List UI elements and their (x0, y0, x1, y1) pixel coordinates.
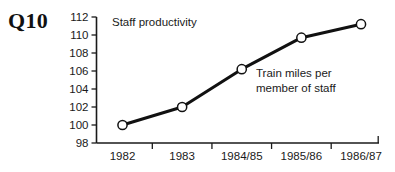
x-tick-label: 1985/86 (281, 150, 323, 162)
line-chart: 98100102104106108110112 198219831984/851… (0, 0, 395, 172)
y-tick-label: 112 (70, 11, 88, 23)
y-tick-label: 108 (69, 47, 88, 59)
x-tick-label: 1986/87 (340, 150, 382, 162)
y-tick-label: 110 (70, 29, 88, 41)
x-tick-label: 1984/85 (221, 150, 263, 162)
y-tick-label: 100 (69, 119, 88, 131)
data-point-marker (118, 120, 127, 129)
chart-title: Staff productivity (112, 16, 197, 28)
data-point-marker (297, 33, 306, 42)
series-annotation-line1: Train miles per (256, 67, 332, 79)
chart-figure: Q10 98100102104106108110112 198219831984… (0, 0, 395, 172)
data-point-marker (178, 102, 187, 111)
y-tick-label: 98 (76, 137, 89, 149)
y-tick-label: 104 (69, 83, 89, 95)
data-point-marker (356, 20, 365, 29)
y-tick-label: 106 (69, 65, 88, 77)
data-point-marker (237, 65, 246, 74)
x-axis-tick-labels: 198219831984/851985/861986/87 (110, 150, 382, 162)
x-tick-label: 1983 (169, 150, 195, 162)
x-tick-label: 1982 (110, 150, 136, 162)
series-annotation-line2: member of staff (256, 82, 336, 94)
y-tick-label: 102 (69, 101, 88, 113)
y-axis-tick-labels: 98100102104106108110112 (69, 11, 89, 149)
